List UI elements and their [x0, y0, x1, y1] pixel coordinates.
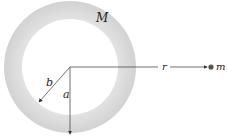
label-M: M: [95, 11, 109, 25]
label-b: b: [46, 76, 53, 89]
label-r: r: [162, 61, 168, 72]
label-a: a: [63, 88, 70, 101]
label-m: m: [216, 61, 225, 72]
shell-diagram: M b a r m: [0, 0, 228, 139]
point-mass: [208, 64, 213, 69]
